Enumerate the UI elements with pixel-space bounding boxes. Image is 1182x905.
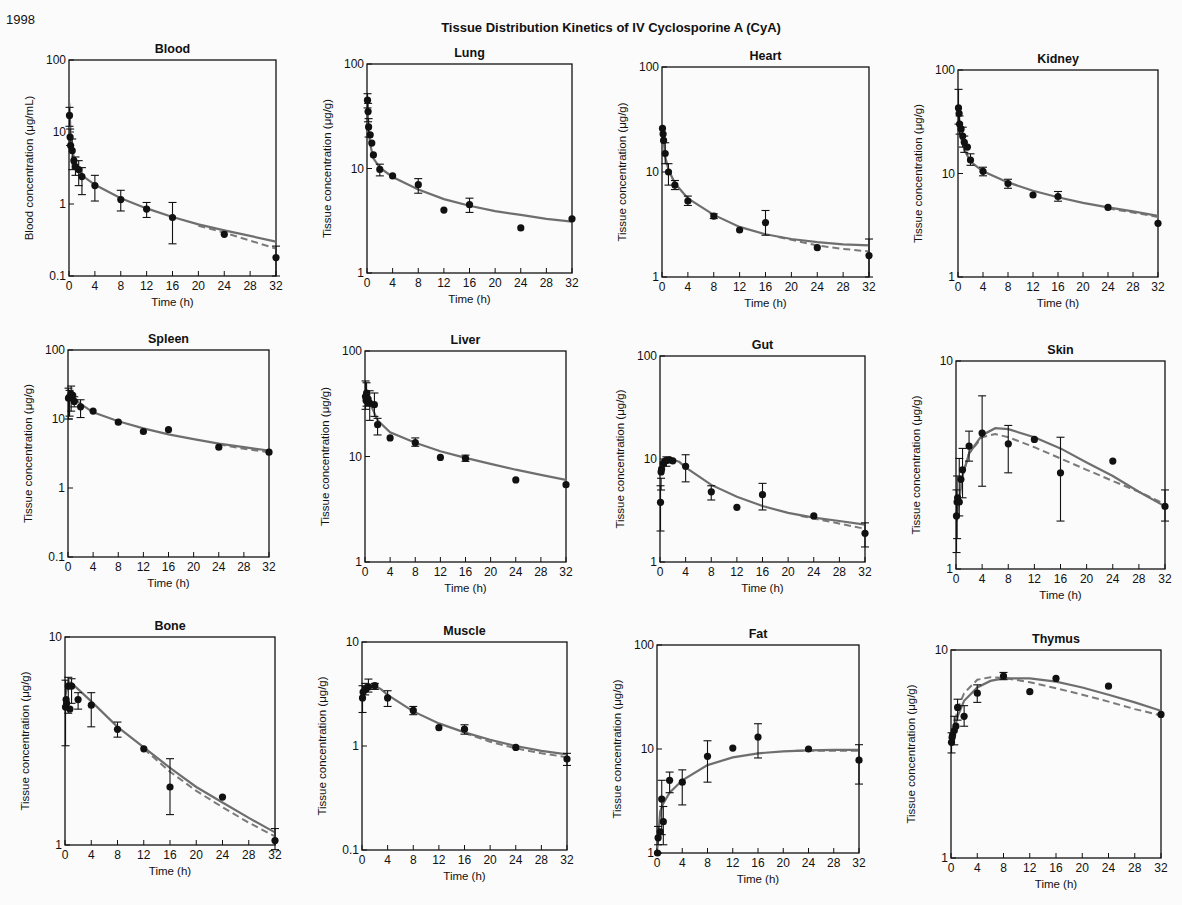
x-tick-label: 24	[509, 565, 523, 579]
data-point	[814, 244, 821, 251]
data-point	[1029, 191, 1036, 198]
x-axis-label: Time (h)	[151, 296, 194, 308]
data-point	[855, 757, 862, 764]
y-tick-label: 100	[637, 349, 657, 363]
data-point	[974, 690, 981, 697]
data-point	[140, 428, 147, 435]
x-tick-label: 16	[463, 276, 477, 290]
x-tick-label: 0	[955, 280, 962, 294]
data-point	[660, 818, 667, 825]
model-curve-solid	[68, 395, 269, 450]
y-tick-label: 10	[935, 643, 949, 657]
x-tick-label: 0	[659, 280, 666, 294]
x-tick-label: 0	[364, 276, 371, 290]
x-tick-label: 0	[65, 560, 72, 574]
x-tick-label: 16	[163, 848, 177, 862]
x-tick-label: 8	[710, 280, 717, 294]
data-point	[1031, 436, 1038, 443]
data-point	[953, 512, 960, 519]
error-bar	[953, 476, 961, 539]
panel-liver: Liver048121620242832110100Time (h)Tissue…	[319, 333, 573, 594]
x-tick-label: 8	[115, 560, 122, 574]
data-point	[517, 224, 524, 231]
x-tick-label: 24	[1102, 861, 1116, 875]
panel-skin: Skin048121620242832110Time (h)Tissue con…	[910, 343, 1172, 601]
y-axis-label: Tissue concentration (μg/g)	[614, 389, 626, 528]
y-tick-label: 10	[646, 165, 660, 179]
x-tick-label: 4	[974, 861, 981, 875]
y-tick-label: 1	[55, 838, 62, 852]
x-tick-label: 32	[852, 856, 866, 870]
x-tick-label: 4	[679, 856, 686, 870]
error-bar	[704, 741, 712, 782]
x-tick-label: 8	[1005, 280, 1012, 294]
y-axis-label: Tissue concentration (μg/g)	[912, 104, 924, 243]
x-tick-label: 32	[565, 276, 579, 290]
data-point	[810, 512, 817, 519]
x-tick-label: 12	[1026, 280, 1040, 294]
x-axis-label: Time (h)	[149, 865, 192, 877]
y-tick-label: 1	[941, 851, 948, 865]
panel-title: Liver	[451, 333, 481, 347]
y-tick-label: 10	[940, 354, 954, 368]
x-tick-label: 4	[685, 280, 692, 294]
error-bar	[169, 202, 177, 243]
x-tick-label: 0	[953, 572, 960, 586]
x-tick-label: 0	[359, 853, 366, 867]
x-tick-label: 24	[509, 853, 523, 867]
data-point	[959, 133, 966, 140]
x-axis-label: Time (h)	[1039, 589, 1082, 601]
data-point	[367, 131, 374, 138]
data-point	[88, 702, 95, 709]
data-point	[679, 779, 686, 786]
x-tick-label: 32	[858, 565, 872, 579]
data-point	[1052, 675, 1059, 682]
data-point	[462, 455, 469, 462]
data-point	[75, 696, 82, 703]
x-tick-label: 0	[948, 861, 955, 875]
x-tick-label: 28	[827, 856, 841, 870]
x-tick-label: 32	[269, 279, 283, 293]
x-tick-label: 28	[1126, 280, 1140, 294]
x-tick-label: 0	[362, 565, 369, 579]
x-tick-label: 8	[704, 856, 711, 870]
x-tick-label: 16	[1051, 280, 1065, 294]
panel-muscle: Muscle0481216202428320.1110Time (h)Tissu…	[316, 624, 574, 882]
x-axis-label: Time (h)	[443, 870, 486, 882]
data-point	[1105, 683, 1112, 690]
data-point	[410, 707, 417, 714]
y-tick-label: 1	[946, 562, 953, 576]
data-point	[371, 401, 378, 408]
data-point	[733, 504, 740, 511]
x-tick-label: 4	[92, 279, 99, 293]
data-point	[387, 434, 394, 441]
y-tick-label: 1	[357, 266, 364, 280]
x-tick-label: 12	[137, 848, 151, 862]
data-point	[1054, 193, 1061, 200]
x-tick-label: 24	[1101, 280, 1115, 294]
x-tick-label: 4	[387, 565, 394, 579]
x-tick-label: 32	[262, 560, 276, 574]
x-axis-label: Time (h)	[737, 873, 780, 885]
data-point	[660, 130, 667, 137]
x-tick-label: 24	[802, 856, 816, 870]
y-tick-label: 1	[355, 555, 362, 569]
x-tick-label: 20	[1080, 572, 1094, 586]
y-axis-label: Tissue concentration (μg/g)	[19, 671, 31, 810]
x-tick-label: 28	[540, 276, 554, 290]
y-tick-label: 100	[45, 343, 65, 357]
y-axis-label: Tissue concentration (μg/g)	[616, 102, 628, 241]
data-point	[272, 254, 279, 261]
x-tick-label: 4	[979, 572, 986, 586]
y-axis-label: Tissue concentration (μg/g)	[905, 684, 917, 823]
x-axis-label: Time (h)	[741, 582, 784, 594]
data-point	[1026, 688, 1033, 695]
y-tick-label: 1	[58, 481, 65, 495]
plot-frame	[367, 64, 572, 273]
data-point	[682, 463, 689, 470]
data-point	[957, 476, 964, 483]
panel-title: Heart	[750, 49, 783, 63]
x-tick-label: 16	[756, 565, 770, 579]
data-point	[1109, 458, 1116, 465]
x-tick-label: 24	[218, 279, 232, 293]
